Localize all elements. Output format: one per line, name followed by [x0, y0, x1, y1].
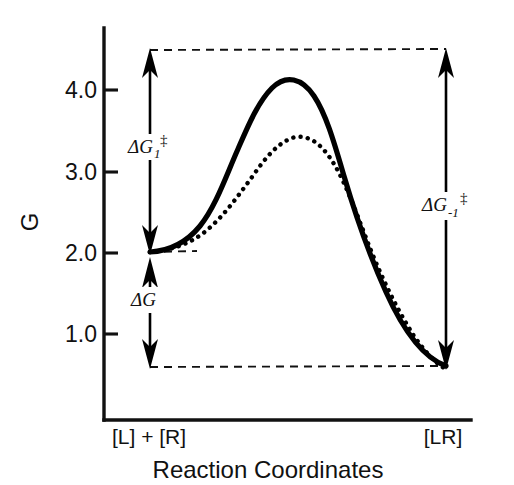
x-label-product: [LR]: [424, 425, 463, 448]
forward-label-symbol: ΔG: [127, 136, 153, 157]
forward-label-superscript: ‡: [160, 132, 168, 148]
energy-diagram-figure: 4.0 3.0 2.0 1.0 G ΔG 1 ‡: [0, 0, 514, 485]
product-level-guide-line: [150, 366, 446, 367]
y-tick-label-3: 3.0: [65, 159, 97, 185]
y-tick-label-2: 2.0: [65, 240, 97, 266]
y-tick-label-4: 4.0: [65, 77, 97, 103]
reverse-activation-energy-arrow: ΔG -1 ‡: [420, 48, 476, 370]
x-axis-category-labels: [L] + [R] [LR]: [112, 425, 462, 448]
reverse-label-subscript: -1: [448, 205, 459, 220]
forward-activation-energy-arrow: ΔG 1 ‡: [126, 48, 178, 255]
catalyzed-reaction-curve: [150, 137, 446, 369]
uncatalyzed-reaction-curve: [150, 80, 446, 366]
free-energy-change-arrow: ΔG: [128, 257, 172, 369]
y-axis-title: G: [16, 213, 43, 232]
free-energy-change-label: ΔG: [130, 289, 156, 310]
transition-state-guide-line: [150, 49, 446, 50]
x-label-reactants: [L] + [R]: [112, 425, 186, 448]
reverse-label-superscript: ‡: [460, 190, 468, 206]
reaction-coordinate-diagram: 4.0 3.0 2.0 1.0 G ΔG 1 ‡: [0, 0, 514, 485]
axes-group: [104, 28, 471, 420]
y-axis-ticks: [104, 90, 118, 334]
reverse-label-symbol: ΔG: [421, 194, 447, 215]
forward-label-subscript: 1: [154, 146, 161, 161]
x-axis-title: Reaction Coordinates: [153, 456, 384, 483]
y-tick-label-1: 1.0: [65, 321, 97, 347]
y-axis-tick-labels: 4.0 3.0 2.0 1.0: [65, 77, 97, 347]
